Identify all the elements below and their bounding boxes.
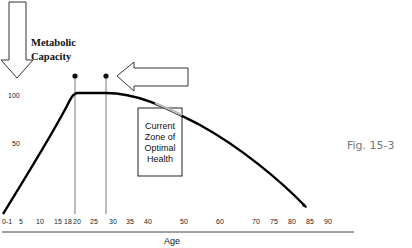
x-tick: 10 xyxy=(36,218,44,225)
x-tick: 5 xyxy=(19,218,23,225)
x-tick: 20 xyxy=(73,218,81,225)
x-tick: 60 xyxy=(216,218,224,225)
box-text-line3: Optimal xyxy=(144,143,175,153)
x-tick: 40 xyxy=(144,218,152,225)
y-tick-100: 100 xyxy=(8,92,20,99)
x-tick: 25 xyxy=(90,218,98,225)
x-tick: 18 xyxy=(64,218,72,225)
x-tick: 90 xyxy=(324,218,332,225)
y-axis-label-line1: Metabolic xyxy=(31,37,76,48)
down-arrow-icon xyxy=(1,2,33,78)
x-tick: 75 xyxy=(270,218,278,225)
x-tick: 15 xyxy=(54,218,62,225)
x-axis-label: Age xyxy=(164,236,180,246)
box-text-line4: Health xyxy=(147,154,173,164)
figure-label: Fig. 15-3 xyxy=(347,139,395,152)
x-tick: 50 xyxy=(180,218,188,225)
x-tick: 0-1 xyxy=(2,218,12,225)
metabolic-capacity-chart: Metabolic Capacity 100 50 Current Zone o… xyxy=(0,0,412,248)
x-tick-labels: 0-1 5 10 15 18 20 25 30 35 40 50 60 70 7… xyxy=(2,218,332,225)
y-axis-label-line2: Capacity xyxy=(31,51,72,62)
x-tick: 80 xyxy=(288,218,296,225)
x-tick: 85 xyxy=(306,218,314,225)
x-tick: 35 xyxy=(126,218,134,225)
marker-dot-age-20 xyxy=(72,73,77,78)
marker-dot-age-30 xyxy=(103,73,108,78)
x-tick: 30 xyxy=(109,218,117,225)
left-arrow-icon xyxy=(117,62,188,91)
box-text-line1: Current xyxy=(145,121,176,131)
box-text-line2: Zone of xyxy=(145,132,176,142)
y-tick-50: 50 xyxy=(12,140,20,147)
x-tick: 70 xyxy=(252,218,260,225)
optimal-health-box xyxy=(138,108,182,176)
